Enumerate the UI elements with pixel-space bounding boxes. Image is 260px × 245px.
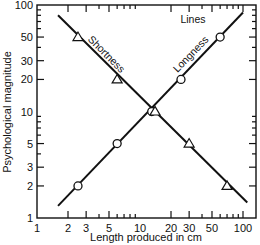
y-tick-label: 20 [21, 73, 33, 85]
x-tick-label: 1 [34, 222, 40, 234]
y-tick-label: 1 [27, 212, 33, 224]
x-tick-label: 50 [206, 222, 218, 234]
series-label-shortness: Shortness [86, 33, 128, 75]
y-tick-label: 100 [15, 0, 33, 11]
y-tick-label: 50 [21, 31, 33, 43]
log-log-chart: 123510203050100 123510203050100 Lines Lo… [0, 0, 260, 245]
x-tick-label: 3 [83, 222, 89, 234]
y-tick-label: 30 [21, 55, 33, 67]
x-axis-title: Length produced in cm [90, 231, 202, 243]
y-tick-label: 2 [27, 180, 33, 192]
triangle-marker [73, 32, 83, 41]
circle-marker [177, 75, 185, 83]
y-tick-labels: 123510203050100 [15, 0, 33, 224]
y-axis-title: Psychological magnitude [1, 51, 13, 173]
panel-label: Lines [180, 13, 205, 25]
x-tick-label: 2 [65, 222, 71, 234]
y-tick-label: 3 [27, 161, 33, 173]
circle-marker [113, 140, 121, 148]
y-tick-label: 10 [21, 106, 33, 118]
circle-marker [74, 182, 82, 190]
x-tick-label: 100 [234, 222, 252, 234]
y-tick-label: 5 [27, 138, 33, 150]
triangle-marker [112, 74, 122, 83]
circle-marker [216, 33, 224, 41]
